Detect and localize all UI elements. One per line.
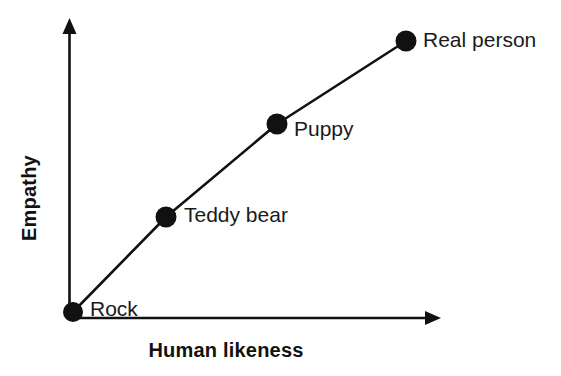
y-axis-title: Empathy (18, 154, 40, 241)
chart-canvas: Rock Teddy bear Puppy Real person Empath… (0, 0, 561, 376)
data-point-label-teddy-bear: Teddy bear (184, 203, 288, 226)
series-line-empathy (73, 41, 406, 312)
data-point-label-rock: Rock (90, 297, 138, 320)
data-point-label-real-person: Real person (423, 28, 536, 51)
data-point-rock[interactable] (63, 302, 83, 322)
y-axis-arrow-icon (63, 18, 77, 34)
data-point-label-puppy: Puppy (294, 117, 354, 140)
x-axis-title: Human likeness (148, 339, 303, 361)
data-point-puppy[interactable] (267, 114, 288, 135)
data-point-real-person[interactable] (396, 31, 417, 52)
chart-figure: Rock Teddy bear Puppy Real person Empath… (0, 0, 561, 376)
x-axis-arrow-icon (425, 311, 441, 325)
data-point-teddy-bear[interactable] (156, 207, 177, 228)
